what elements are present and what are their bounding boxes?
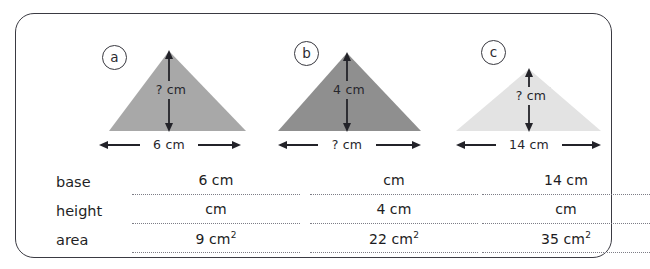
answer-unit: cm	[566, 172, 588, 188]
answer-value: 14	[544, 172, 562, 188]
dotted-line	[482, 194, 650, 195]
squared-exponent: 2	[413, 230, 419, 240]
base-dimension-c: 14 cm	[494, 137, 564, 152]
answer-cell-base-b[interactable]: cm	[310, 172, 478, 197]
row-label-height: height	[56, 203, 126, 219]
answer-unit: cm	[391, 231, 413, 247]
answer-text-base-b: cm	[310, 172, 478, 188]
answer-value: 35	[541, 231, 559, 247]
dotted-line	[310, 252, 478, 253]
base-arrow-head-right-c	[592, 141, 601, 149]
answer-value: 22	[369, 231, 387, 247]
figure-b: b 4 cm ? cm	[256, 36, 446, 161]
answer-value: 4	[376, 201, 385, 217]
base-arrow-head-left-c	[456, 141, 465, 149]
height-dimension-a: ? cm	[149, 82, 193, 97]
answer-text-base-c: 14 cm	[482, 172, 650, 188]
row-label-area: area	[56, 232, 126, 248]
base-arrow-head-left-a	[99, 141, 108, 149]
figure-c: c ? cm 14 cm	[436, 36, 626, 161]
row-label-base: base	[56, 174, 126, 190]
answer-unit: cm	[563, 231, 585, 247]
answer-unit: cm	[555, 201, 577, 217]
figure-a: a ? cm 6 cm	[76, 36, 266, 161]
dotted-line	[310, 194, 478, 195]
height-dimension-c: ? cm	[509, 88, 553, 103]
table-row-area: area 9 cm2 22 cm2 35 cm2	[42, 229, 617, 257]
table-row-base: base 6 cm cm 14 cm	[42, 171, 617, 199]
dotted-line	[132, 252, 300, 253]
table-row-height: height cm 4 cm cm	[42, 200, 617, 228]
answer-text-base-a: 6 cm	[132, 172, 300, 188]
answer-table: base 6 cm cm 14 cm height cm	[42, 171, 617, 259]
dotted-line	[132, 223, 300, 224]
answer-unit: cm	[390, 201, 412, 217]
answer-cell-height-b[interactable]: 4 cm	[310, 201, 478, 226]
answer-text-height-b: 4 cm	[310, 201, 478, 217]
answer-cell-base-c[interactable]: 14 cm	[482, 172, 650, 197]
worksheet-frame: a ? cm 6 cm b	[15, 13, 612, 258]
dotted-line	[132, 194, 300, 195]
dotted-line	[482, 223, 650, 224]
squared-exponent: 2	[585, 230, 591, 240]
answer-unit: cm	[212, 172, 234, 188]
answer-cell-base-a[interactable]: 6 cm	[132, 172, 300, 197]
dotted-line	[482, 252, 650, 253]
answer-text-height-c: cm	[482, 201, 650, 217]
answer-text-area-c: 35 cm2	[482, 230, 650, 247]
base-dimension-b: ? cm	[317, 137, 377, 152]
squared-exponent: 2	[231, 230, 237, 240]
answer-text-area-b: 22 cm2	[310, 230, 478, 247]
answer-cell-area-c[interactable]: 35 cm2	[482, 230, 650, 255]
answer-cell-height-a[interactable]: cm	[132, 201, 300, 226]
answer-value: 6	[198, 172, 207, 188]
base-dimension-a: 6 cm	[139, 137, 199, 152]
answer-cell-height-c[interactable]: cm	[482, 201, 650, 226]
dotted-line	[310, 223, 478, 224]
base-arrow-head-right-a	[232, 141, 241, 149]
answer-unit: cm	[209, 231, 231, 247]
answer-text-area-a: 9 cm2	[132, 230, 300, 247]
answer-value: 9	[196, 231, 205, 247]
answer-unit: cm	[205, 201, 227, 217]
base-arrow-head-right-b	[412, 141, 421, 149]
answer-cell-area-a[interactable]: 9 cm2	[132, 230, 300, 255]
height-dimension-b: 4 cm	[327, 82, 371, 97]
base-arrow-head-left-b	[278, 141, 287, 149]
answer-unit: cm	[383, 172, 405, 188]
answer-cell-area-b[interactable]: 22 cm2	[310, 230, 478, 255]
answer-text-height-a: cm	[132, 201, 300, 217]
